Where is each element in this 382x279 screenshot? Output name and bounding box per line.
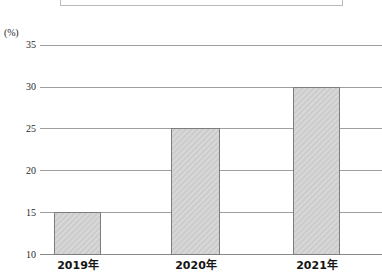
clipped-footer-text — [104, 273, 279, 279]
x-label-2021: 2021年 — [272, 256, 362, 272]
plot-area — [40, 45, 382, 254]
chart-figure: (%) 35 30 25 20 15 10 2019年 2020年 2021年 — [0, 0, 382, 279]
y-tick-20: 20 — [2, 166, 36, 176]
y-tick-35: 35 — [2, 40, 36, 50]
y-tick-25: 25 — [2, 124, 36, 134]
bar-2021[interactable] — [293, 87, 340, 255]
caption-box — [60, 0, 343, 6]
bar-2020[interactable] — [171, 128, 220, 255]
x-label-2019: 2019年 — [33, 256, 123, 272]
y-tick-10: 10 — [2, 250, 36, 260]
y-tick-15: 15 — [2, 208, 36, 218]
y-axis-tick-labels: 35 30 25 20 15 10 — [0, 0, 36, 279]
bar-2019[interactable] — [54, 212, 101, 255]
x-label-2020: 2020年 — [151, 256, 241, 272]
y-tick-30: 30 — [2, 82, 36, 92]
gridline-35 — [40, 45, 382, 46]
